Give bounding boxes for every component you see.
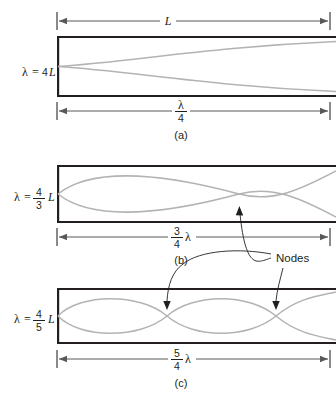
panel-b-caption: (b) [174, 254, 187, 266]
panel-c-equals-symbol: = [24, 312, 31, 326]
panel-b-lambda-symbol: λ [14, 190, 20, 204]
top-dimension-label: L [164, 14, 172, 28]
panel-c-fraction-denominator: 5 [36, 321, 42, 333]
standing-wave-figure: L λ = 4 L λ [0, 0, 336, 402]
panel-a-lambda-unit: L [48, 65, 56, 79]
panel-c-fraction-numerator: 4 [36, 308, 42, 320]
panel-b-lambda-unit: L [47, 190, 55, 204]
panel-c-dim-numerator: 5 [174, 347, 180, 359]
panel-c-lambda-unit: L [47, 312, 55, 326]
panel-a-caption: (a) [174, 129, 187, 141]
panel-a-equals-symbol: = [32, 65, 39, 79]
panel-b-dim-denominator: 4 [174, 238, 180, 250]
panel-b-fraction-denominator: 3 [36, 199, 42, 211]
panel-a-dim-numerator: λ [178, 98, 184, 112]
panel-a-lambda-symbol: λ [22, 65, 28, 79]
panel-c-dim-lambda-suffix: λ [185, 352, 191, 366]
panel-b-equals-symbol: = [24, 190, 31, 204]
panel-a-dim-denominator: 4 [178, 112, 184, 124]
panel-c-dim-denominator: 4 [174, 360, 180, 372]
panel-b-dim-numerator: 3 [174, 225, 180, 237]
panel-a-lambda-value: 4 [42, 66, 48, 78]
panel-b-dim-lambda-suffix: λ [185, 230, 191, 244]
panel-b-fraction-numerator: 4 [36, 186, 42, 198]
panel-c-lambda-symbol: λ [14, 312, 20, 326]
nodes-label: Nodes [276, 252, 309, 264]
panel-c-caption: (c) [175, 377, 188, 389]
